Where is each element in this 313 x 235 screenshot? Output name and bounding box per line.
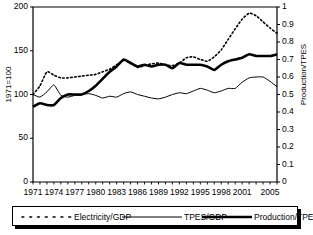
legend-swatch-dotted [21,212,73,222]
legend-item: Production/TPES [201,211,313,223]
legend: Electricity/GDPTPES/GDPProduction/TPES [12,206,298,226]
legend-label: Production/TPES [254,212,313,222]
chart-figure: 1971=100 Production/TPES 050100150200 00… [0,0,313,235]
series-line-electricity-gdp [33,13,277,94]
legend-swatch-thin [121,212,183,222]
legend-swatch-thick [201,212,253,222]
plot-area [0,0,313,235]
legend-shadow-bottom [15,226,301,229]
legend-item: Electricity/GDP [21,211,131,223]
